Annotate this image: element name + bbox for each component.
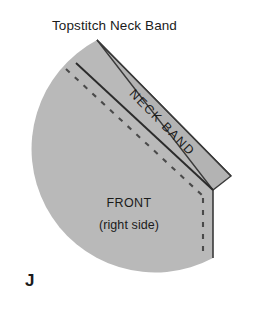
sewing-diagram-figure: NECK BAND FRONT (right side) Topstitch N… bbox=[0, 0, 276, 310]
figure-letter-label: J bbox=[25, 271, 34, 291]
front-label: FRONT bbox=[106, 196, 151, 210]
neck-band-diagram: NECK BAND FRONT (right side) bbox=[0, 0, 276, 310]
figure-title: Topstitch Neck Band bbox=[52, 18, 177, 33]
right-side-label: (right side) bbox=[99, 218, 159, 232]
